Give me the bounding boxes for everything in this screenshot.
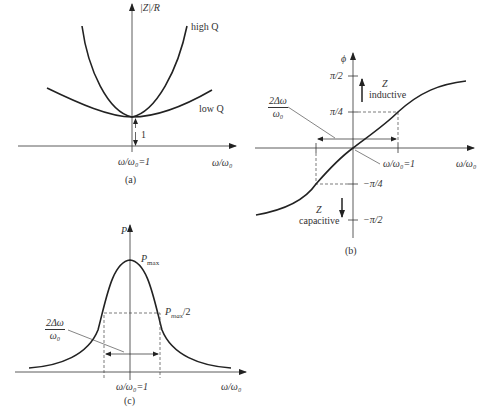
diagram-canvas (0, 0, 481, 419)
a-low-q-curve (47, 88, 212, 117)
a-low-q-label: low Q (199, 104, 224, 114)
c-peak-label: Pmax (141, 254, 159, 267)
c-y-label: P (121, 226, 127, 236)
b-y-label: ϕ (341, 54, 346, 64)
b-x-label: ω/ω₀ (456, 159, 476, 169)
c-bandwidth-den: ω₀ (45, 330, 65, 341)
resonance-diagram: |Z|/R high Q low Q 1 ω/ω₀=1 ω/ω₀ (a) ϕ π… (0, 0, 481, 419)
c-half-label: Pmax/2 (165, 307, 191, 320)
a-x-label: ω/ω₀ (212, 158, 232, 168)
c-half-suffix: /2 (183, 306, 191, 317)
c-dashed-guides (104, 313, 160, 378)
c-peak-sub: max (147, 259, 159, 267)
a-caption: (a) (125, 175, 136, 185)
a-high-q-text: high Q (191, 21, 219, 32)
c-x-tick-label: ω/ω₀=1 (116, 382, 148, 392)
b-tick-mpi2-label: −π/2 (363, 215, 383, 225)
b-origin-leader (355, 150, 380, 164)
a-x-tick-label: ω/ω₀=1 (118, 157, 150, 167)
b-caption: (b) (345, 246, 357, 256)
b-bandwidth-fraction: 2Δω ω₀ (268, 96, 288, 119)
b-inductive-z: Z (382, 79, 388, 89)
b-bandwidth-leader (288, 107, 335, 138)
b-x-tick-label: ω/ω₀=1 (383, 159, 415, 169)
b-capacitive-z: Z (316, 205, 322, 215)
c-caption: (c) (124, 396, 135, 406)
b-tick-pi4-label: π/4 (330, 107, 343, 117)
b-inductive-label: inductive (369, 90, 406, 100)
panel-c (15, 225, 246, 380)
a-high-q-curve (82, 26, 187, 117)
a-y-label: |Z|/R (140, 3, 160, 13)
c-x-label: ω/ω₀ (221, 382, 241, 392)
c-half-sub: max (171, 312, 183, 320)
c-bandwidth-fraction: 2Δω ω₀ (45, 318, 65, 341)
a-high-q-label: high Q (191, 22, 219, 32)
b-capacitive-label: capacitive (299, 216, 340, 226)
b-bandwidth-num: 2Δω (268, 96, 288, 108)
panel-b (255, 53, 474, 238)
b-bandwidth-den: ω₀ (268, 108, 288, 119)
a-unit-label: 1 (141, 130, 146, 140)
b-tick-pi2-label: π/2 (330, 71, 343, 81)
b-tick-mpi4-label: −π/4 (363, 179, 383, 189)
c-bandwidth-num: 2Δω (45, 318, 65, 330)
